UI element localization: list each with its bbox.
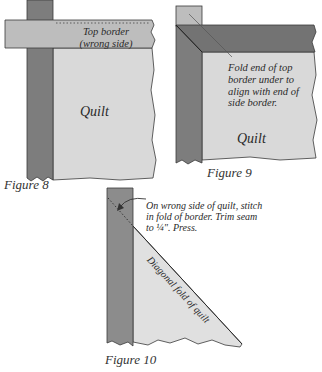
figure-10-note: On wrong side of quilt, stitch in fold o… (146, 200, 322, 234)
label-line: to ¼". Press. (146, 222, 322, 233)
figure-9-quilt-label: Quilt (237, 131, 266, 147)
figure-9-note: Fold end of top border under to align wi… (228, 62, 318, 109)
label-line: Top border (64, 26, 148, 38)
figure-8-quilt-label: Quilt (80, 104, 109, 120)
figure-10-caption: Figure 10 (105, 353, 156, 368)
label-line: On wrong side of quilt, stitch (146, 200, 322, 211)
figure-8-top-border-label: Top border (wrong side) (64, 26, 148, 50)
figure-8-caption: Figure 8 (4, 178, 49, 193)
label-line: in fold of border. Trim seam (146, 211, 322, 222)
label-line: side border. (228, 97, 318, 109)
label-line: align with end of (228, 86, 318, 98)
figure-9-caption: Figure 9 (207, 166, 252, 181)
label-line: border under to (228, 74, 318, 86)
label-line: Fold end of top (228, 62, 318, 74)
label-line: (wrong side) (64, 38, 148, 50)
